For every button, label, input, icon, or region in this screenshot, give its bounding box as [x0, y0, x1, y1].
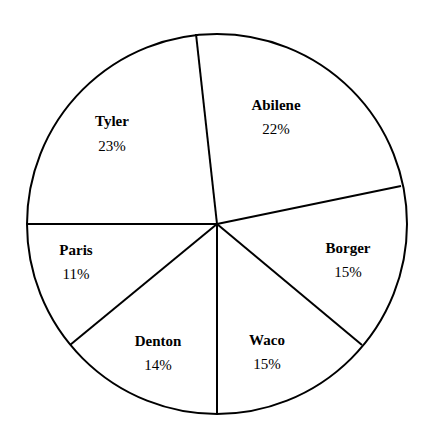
- slice-name: Abilene: [251, 97, 301, 113]
- slice-percent: 23%: [98, 138, 126, 154]
- slice-percent: 14%: [144, 357, 172, 373]
- slice-percent: 22%: [262, 121, 290, 137]
- pie-chart: Abilene 22% Borger 15% Waco 15% Denton 1…: [0, 0, 425, 447]
- slice-name: Denton: [135, 333, 182, 349]
- slice-percent: 15%: [334, 264, 362, 280]
- slice-name: Tyler: [95, 113, 129, 129]
- slice-name: Waco: [249, 332, 285, 348]
- slice-percent: 11%: [63, 266, 90, 282]
- slice-percent: 15%: [253, 356, 281, 372]
- slice-name: Borger: [326, 240, 371, 256]
- slice-name: Paris: [59, 242, 92, 258]
